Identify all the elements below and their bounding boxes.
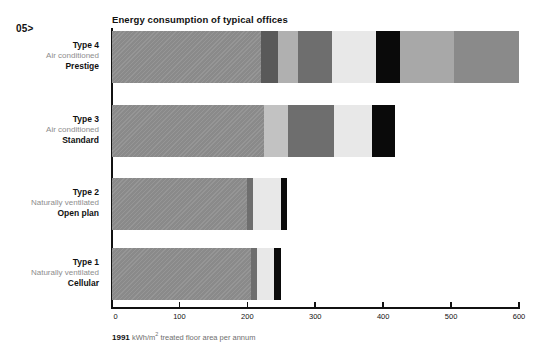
- row-label-plan: Prestige: [0, 61, 99, 72]
- row-label-type: Type 2: [0, 187, 99, 198]
- bar-segment[interactable]: [298, 31, 332, 83]
- x-axis-tick-0: [111, 302, 113, 309]
- bar-segment[interactable]: [112, 31, 261, 83]
- x-axis-tick-label-300: 300: [309, 312, 322, 321]
- row-label-3: Type 2Naturally ventilatedOpen plan: [0, 187, 108, 219]
- stacked-bar[interactable]: [112, 105, 396, 157]
- bar-segment[interactable]: [376, 31, 400, 83]
- bar-segment[interactable]: [278, 31, 298, 83]
- bar-segment[interactable]: [264, 105, 288, 157]
- row-label-type: Type 3: [0, 114, 99, 125]
- x-axis-tick-label-0: 0: [114, 312, 118, 321]
- bar-segment[interactable]: [274, 248, 280, 300]
- row-label-ventilation: Air conditioned: [0, 51, 99, 61]
- x-axis-tick-label-500: 500: [445, 312, 458, 321]
- caption-unit: kWh/m: [132, 333, 155, 342]
- bar-segment[interactable]: [112, 178, 248, 230]
- bar-segment[interactable]: [281, 178, 287, 230]
- x-axis-tick-label-400: 400: [377, 312, 390, 321]
- page-marker: 05>: [16, 23, 34, 34]
- row-label-plan: Standard: [0, 135, 99, 146]
- x-axis-tick-600: [518, 302, 520, 309]
- bar-segment[interactable]: [288, 105, 334, 157]
- row-label-1: Type 4Air conditionedPrestige: [0, 40, 108, 72]
- x-axis-tick-200: [247, 302, 249, 309]
- chart-title: Energy consumption of typical offices: [112, 14, 288, 25]
- bar-segment[interactable]: [372, 105, 395, 157]
- bar-segment[interactable]: [253, 178, 281, 230]
- bar-segment[interactable]: [454, 31, 519, 83]
- energy-consumption-figure: 05> Energy consumption of typical office…: [0, 0, 553, 358]
- bar-segment[interactable]: [332, 31, 376, 83]
- row-label-type: Type 1: [0, 257, 99, 268]
- x-axis-tick-label-200: 200: [241, 312, 254, 321]
- bar-segment[interactable]: [261, 31, 278, 83]
- row-label-plan: Cellular: [0, 278, 99, 289]
- bar-segment[interactable]: [112, 248, 252, 300]
- row-label-type: Type 4: [0, 40, 99, 51]
- x-axis-tick-label-600: 600: [513, 312, 526, 321]
- caption-year: 1991: [112, 333, 130, 342]
- bar-segment[interactable]: [334, 105, 372, 157]
- bar-segment[interactable]: [257, 248, 275, 300]
- stacked-bar[interactable]: [112, 248, 281, 300]
- x-axis-tick-300: [314, 302, 316, 309]
- row-label-ventilation: Naturally ventilated: [0, 268, 99, 278]
- axis-caption: 1991 kWh/m2 treated floor area per annum: [112, 331, 255, 342]
- bar-segment[interactable]: [112, 105, 265, 157]
- x-axis-tick-400: [382, 302, 384, 309]
- row-label-plan: Open plan: [0, 208, 99, 219]
- row-label-2: Type 3Air conditionedStandard: [0, 114, 108, 146]
- bar-segment[interactable]: [400, 31, 454, 83]
- stacked-bar[interactable]: [112, 178, 287, 230]
- stacked-bar[interactable]: [112, 31, 519, 83]
- x-axis-tick-label-100: 100: [173, 312, 186, 321]
- row-label-ventilation: Naturally ventilated: [0, 198, 99, 208]
- x-axis-tick-100: [179, 302, 181, 309]
- x-axis-tick-500: [450, 302, 452, 309]
- row-label-4: Type 1Naturally ventilatedCellular: [0, 257, 108, 289]
- row-label-ventilation: Air conditioned: [0, 125, 99, 135]
- caption-unit-suffix: treated floor area per annum: [158, 333, 255, 342]
